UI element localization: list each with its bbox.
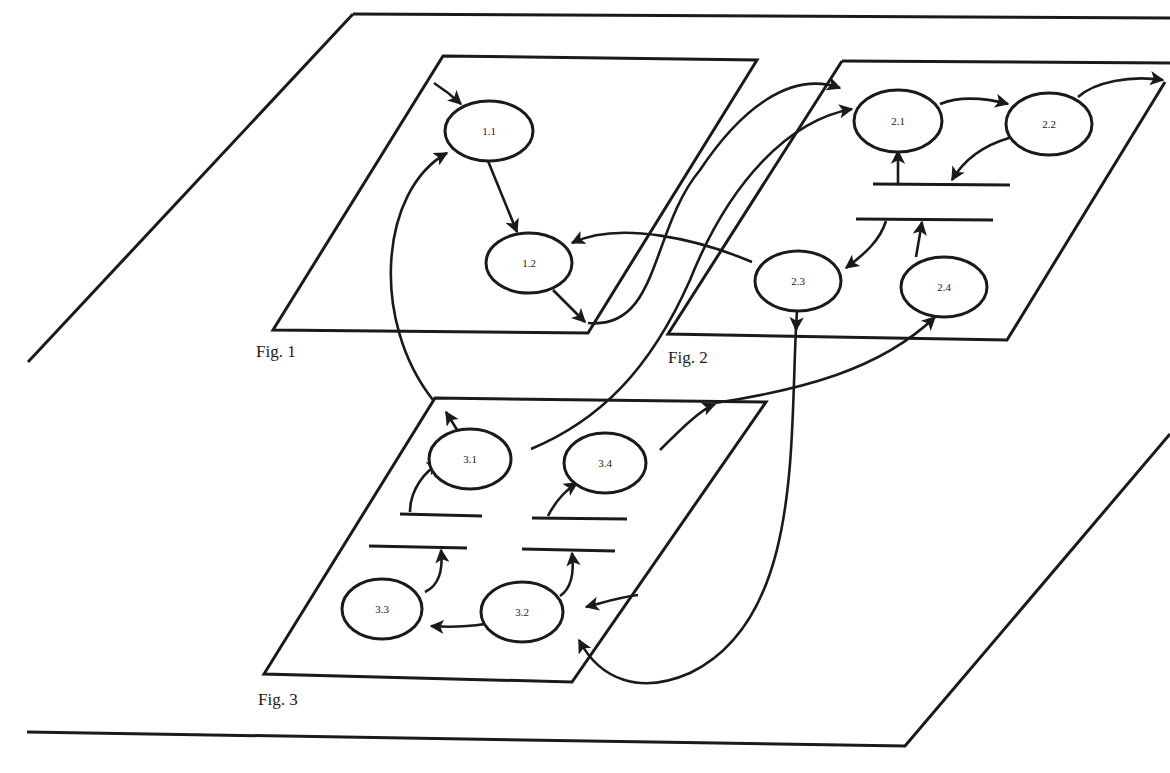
- flow-2-3-to-3-2: [579, 328, 796, 683]
- node-2-1: 2.1: [854, 90, 942, 152]
- node-3-3-label: 3.3: [375, 603, 389, 615]
- fig3-label: Fig. 3: [258, 690, 298, 709]
- node-2-3: 2.3: [755, 251, 841, 311]
- node-3-3: 3.3: [342, 579, 422, 639]
- flow-store3b-to-3-4: [548, 483, 577, 516]
- flow-2-1-to-2-2: [940, 99, 1008, 104]
- flow-1-1-to-1-2: [488, 161, 517, 232]
- flow-store-to-2-3: [846, 221, 886, 268]
- figure-3-plane: Fig. 3: [258, 398, 766, 709]
- flow-external-to-1-1: [434, 83, 461, 104]
- flow-3-2-to-store3b: [560, 553, 573, 596]
- node-1-2-label: 1.2: [522, 257, 536, 269]
- flow-2-3-down: [796, 310, 797, 330]
- outer-plane: [27, 14, 1170, 746]
- fig1-label: Fig. 1: [256, 342, 296, 361]
- node-3-2: 3.2: [481, 582, 563, 642]
- node-3-1-label: 3.1: [463, 453, 477, 465]
- node-1-1-label: 1.1: [482, 125, 496, 137]
- fig2-top-edge: [842, 61, 1170, 63]
- node-1-2: 1.2: [486, 233, 572, 293]
- node-2-4: 2.4: [901, 257, 987, 317]
- node-3-4-label: 3.4: [598, 457, 612, 469]
- outer-plane-left-edge: [28, 14, 353, 362]
- node-1-1: 1.1: [445, 101, 533, 161]
- flow-3-1-to-1-1: [391, 153, 447, 400]
- node-2-3-label: 2.3: [791, 275, 805, 287]
- node-2-2: 2.2: [1006, 93, 1092, 155]
- node-2-4-label: 2.4: [937, 281, 951, 293]
- fig2-label: Fig. 2: [668, 348, 708, 367]
- leveled-dataflow-diagram: Fig. 1 Fig. 2 Fig. 3: [0, 0, 1170, 773]
- flow-3-4-out: [660, 404, 715, 450]
- flow-3-4-to-2-4: [715, 317, 935, 403]
- data-store-fig3-left: [369, 514, 482, 548]
- node-3-2-label: 3.2: [515, 606, 529, 618]
- node-2-1-label: 2.1: [891, 115, 905, 127]
- flow-3-3-to-store3a: [425, 550, 442, 592]
- outer-plane-top-edge: [353, 14, 1170, 18]
- data-store-fig3-right: [522, 518, 627, 551]
- node-3-1: 3.1: [429, 429, 511, 489]
- flow-1-2-out: [553, 290, 585, 322]
- flow-2-4-to-store: [916, 222, 922, 257]
- data-store-fig2: [856, 184, 1010, 220]
- flow-2-2-to-store: [952, 138, 1009, 180]
- node-2-2-label: 2.2: [1042, 118, 1056, 130]
- node-3-4: 3.4: [564, 433, 646, 493]
- flow-2-2-to-external: [1078, 78, 1163, 97]
- flow-external-to-3-2: [586, 595, 638, 607]
